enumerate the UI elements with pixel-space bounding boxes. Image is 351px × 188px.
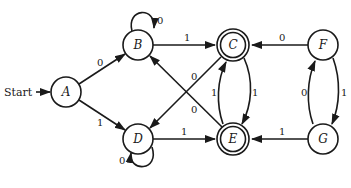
edge-label-C-D: 0 (191, 71, 197, 82)
edge-label-G-F: 0 (301, 87, 307, 98)
state-label-B: B (133, 38, 143, 52)
edge-label-F-G: 1 (341, 87, 347, 98)
state-label-C: C (228, 38, 237, 52)
edge-label-C-E: 1 (252, 87, 258, 98)
edge-label-B-B: 0 (157, 15, 163, 26)
edge-label-E-C: 1 (211, 87, 217, 98)
state-label-E: E (228, 132, 238, 146)
edge-G-F (308, 61, 315, 124)
edge-F-G (332, 58, 339, 124)
edge-label-D-E: 1 (181, 126, 187, 137)
edge-label-A-B: 0 (97, 57, 103, 68)
state-label-G: G (318, 132, 328, 146)
start-label: Start (4, 86, 33, 99)
edge-label-G-E: 1 (279, 126, 285, 137)
edge-E-C (218, 62, 226, 124)
edge-C-E (242, 58, 251, 124)
edge-B-B (131, 13, 154, 31)
edge-label-B-C: 1 (184, 32, 190, 43)
automaton-diagram: Start A B C D E F G 0 1 0 1 0 0 0 1 1 1 … (0, 0, 351, 188)
state-label-D: D (132, 132, 143, 146)
state-label-F: F (318, 38, 328, 52)
edge-label-E-B: 0 (191, 104, 197, 115)
edge-label-D-D: 0 (119, 155, 125, 166)
state-label-A: A (61, 85, 71, 99)
edge-label-F-C: 0 (279, 32, 285, 43)
edge-label-A-D: 1 (97, 117, 103, 128)
